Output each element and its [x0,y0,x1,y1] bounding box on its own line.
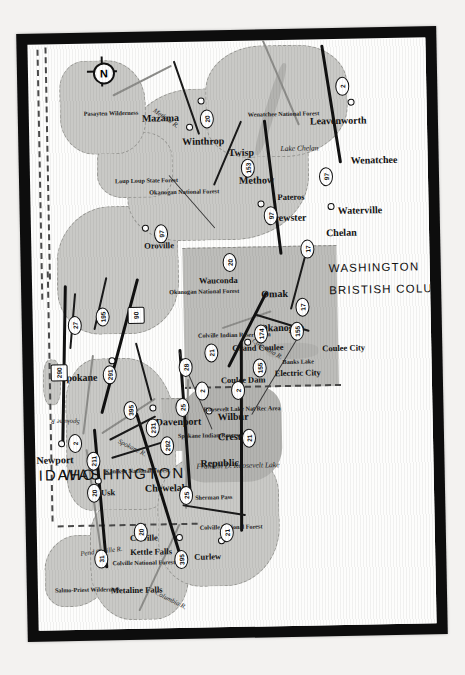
city-label-wauconda: Wauconda [199,276,238,285]
route-shield-2-c[interactable]: 2 [231,381,245,400]
route-shield-155-a[interactable]: 155 [252,358,266,377]
route-number: 97 [322,173,329,180]
route-number: 292 [164,440,171,451]
route-shield-174[interactable]: 174 [254,324,268,343]
route-shield-231[interactable]: 231 [146,418,160,437]
feature-label-colville-indian-reservation: Colville Indian Reservation [198,332,244,339]
route-shield-2-d[interactable]: 2 [335,77,349,96]
route-number: 2 [199,389,206,393]
city-label-newport: Newport [36,455,73,466]
route-number: 395 [127,405,134,416]
city-label-waterville: Waterville [338,205,383,216]
route-number: 395 [178,554,185,565]
route-number: 20 [226,259,233,266]
route-number: 153 [244,163,251,174]
route-number: 20 [203,115,210,122]
water-label-franklin-d-roosevelt-lake: Franklin D. Roosevelt Lake [196,462,252,471]
city-label-wenatchee: Wenatchee [351,155,398,166]
route-number: 27 [71,322,78,329]
route-number: 17 [304,245,311,252]
map-frame-border: IDAHO WASHINGTON BRISTISH COLUMBIA WASHI… [16,26,448,642]
route-shield-211[interactable]: 211 [86,452,100,471]
map-artwork: IDAHO WASHINGTON BRISTISH COLUMBIA WASHI… [28,38,436,631]
city-label-wilbur: Wilbur [218,412,249,423]
route-number: 17 [299,303,306,310]
border-canada-us [44,48,50,280]
route-shield-17-b[interactable]: 17 [300,239,314,258]
route-number: 2 [72,442,79,446]
route-shield-25-b[interactable]: 25 [175,398,189,417]
map-page: IDAHO WASHINGTON BRISTISH COLUMBIA WASHI… [0,0,465,675]
route-shield-97-a[interactable]: 97 [154,224,168,243]
feature-label-kaniksu-national-forest: Kaniksu National Forest [105,468,151,475]
city-dot-leavenworth [348,99,355,106]
city-label-electric-city: Electric City [275,368,321,377]
route-shield-195[interactable]: 195 [95,307,109,326]
route-shield-155-b[interactable]: 155 [290,322,304,341]
route-shield-21-c[interactable]: 21 [204,343,218,362]
route-shield-20-a[interactable]: 20 [87,484,101,503]
feature-label-okanogan-national-forest-south: Okanogan National Forest [149,189,195,196]
compass-letter: N [100,67,108,79]
city-label-chelan: Chelan [326,228,357,239]
city-label-curlew: Curlew [194,552,221,561]
city-label-usk: Usk [101,488,115,497]
route-number: 2 [339,84,346,88]
route-shield-21-a[interactable]: 21 [220,523,234,542]
route-number: 291 [106,369,113,380]
border-british-columbia-washington [37,50,44,300]
route-shield-27[interactable]: 27 [68,316,82,335]
route-shield-31[interactable]: 31 [94,549,108,568]
route-shield-290[interactable]: 290 [51,364,68,381]
route-shield-25-a[interactable]: 25 [179,486,193,505]
route-number: 28 [182,364,189,371]
region-label-british-columbia: BRISTISH COLUMBIA [329,283,437,297]
route-number: 25 [179,404,186,411]
route-number: 195 [99,311,106,322]
route-number: 20 [137,529,144,536]
city-label-twisp: Twisp [228,148,254,158]
route-shield-21-b[interactable]: 21 [242,429,256,448]
route-number: 97 [267,212,274,219]
route-shield-2-a[interactable]: 2 [68,434,82,453]
water-label-lake-chelan: Lake Chelan [280,144,314,152]
city-label-winthrop: Winthrop [182,136,224,147]
route-number: 90 [133,312,140,319]
route-shield-17-a[interactable]: 17 [295,298,309,317]
route-shield-20-c[interactable]: 20 [222,253,236,272]
route-shield-291[interactable]: 291 [103,365,117,384]
route-number: 290 [56,367,63,378]
city-label-kettle-falls: Kettle Falls [130,547,172,556]
route-shield-97-b[interactable]: 97 [264,206,278,225]
city-dot-newport [58,440,65,447]
route-shield-292[interactable]: 292 [160,436,174,455]
water-label-banks-lake: Banks Lake [282,358,312,365]
route-shield-395-a[interactable]: 395 [123,401,137,420]
city-dot-oroville [142,225,149,232]
feature-label-roosevelt-lake-rec-area: Roosevelt Lake Nat Rec Area [203,406,247,413]
route-shield-395-b[interactable]: 395 [174,550,188,569]
feature-label-spokane-indian-reservation: Spokane Indian Reservation [178,432,224,439]
route-number: 231 [149,423,156,434]
region-label-washington-secondary: WASHINGTON [329,261,420,274]
route-shield-28[interactable]: 28 [178,358,192,377]
route-shield-20-d[interactable]: 20 [200,109,214,128]
route-number: 25 [183,492,190,499]
feature-label-salmo-priest-wilderness: Salmo-Priest Wilderness [55,586,107,593]
route-shield-97-c[interactable]: 97 [319,167,333,186]
route-number: 155 [293,326,300,337]
route-number: 31 [98,555,105,562]
route-shield-153[interactable]: 153 [241,159,255,178]
route-number: 155 [256,362,263,373]
city-label-coulee-city: Coulee City [322,343,365,352]
route-shield-90[interactable]: 90 [127,307,144,324]
city-dot-waterville [328,203,335,210]
route-shield-2-b[interactable]: 2 [195,381,209,400]
feature-label-colville-national-forest-west: Colville National Forest [112,559,158,566]
city-label-davenport: Davenport [156,417,202,428]
city-dot-davenport [149,404,156,411]
north-arrow-icon: N [87,56,118,87]
city-label-omak: Omak [261,289,288,300]
route-number: 174 [257,328,264,339]
route-shield-20-b[interactable]: 20 [134,523,148,542]
